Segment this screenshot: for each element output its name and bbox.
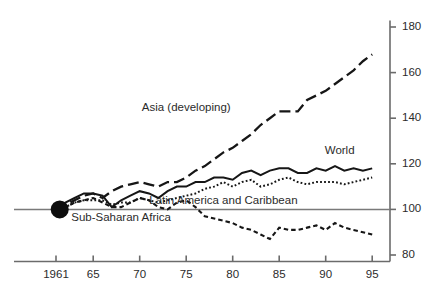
series-label-world: World [325,144,355,156]
x-tick-label: 95 [366,268,379,280]
y-tick-label: 100 [402,202,421,214]
y-axis-ticks: 80100120140160180 [390,20,421,260]
chart-figure: 80100120140160180 196165707580859095 Asi… [0,0,427,290]
x-tick-label: 80 [226,268,239,280]
y-tick-label: 140 [402,111,421,123]
y-tick-label: 160 [402,66,421,78]
x-tick-label: 1961 [43,268,69,280]
x-tick-label: 85 [273,268,286,280]
x-tick-label: 75 [180,268,193,280]
x-tick-label: 65 [87,268,100,280]
x-axis-ticks: 196165707580859095 [43,256,378,280]
y-tick-label: 180 [402,20,421,32]
series-label-sub-saharan-africa: Sub-Saharan Africa [71,211,171,223]
series-label-latin-america-and-caribbean: Latin America and Caribbean [149,194,297,206]
line-chart-canvas: 80100120140160180 196165707580859095 Asi… [0,0,427,290]
y-tick-label: 80 [402,248,415,260]
x-tick-label: 90 [319,268,332,280]
y-tick-label: 120 [402,157,421,169]
series-label-asia-developing: Asia (developing) [142,101,231,113]
origin-marker-dot [51,200,69,218]
x-tick-label: 70 [133,268,146,280]
